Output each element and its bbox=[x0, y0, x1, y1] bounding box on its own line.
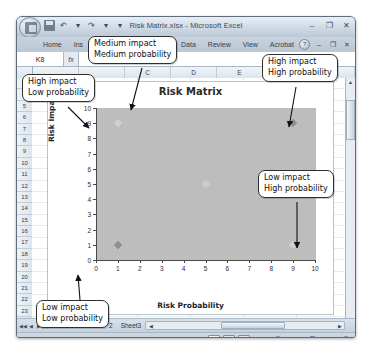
document-close-button[interactable]: ✕ bbox=[342, 40, 352, 50]
chart-x-tick-0: 0 bbox=[91, 265, 101, 272]
row-header-15[interactable]: 15 bbox=[17, 215, 32, 226]
ribbon-tab-strip: Home Ins Data Review View Acrobat ? – ❐ … bbox=[17, 37, 355, 52]
zoom-out-button[interactable]: – bbox=[273, 336, 283, 339]
sheet-nav-first-icon[interactable]: ◀◀ bbox=[19, 323, 26, 329]
chart-y-tickmark-9 bbox=[93, 123, 96, 124]
row-header-6[interactable]: 6 bbox=[17, 112, 32, 123]
callout-medium-impact: Medium impact Medium probability bbox=[88, 36, 177, 64]
sheet-tab-sheet3[interactable]: Sheet3 bbox=[117, 320, 146, 332]
callout-low-low-line2: Low probability bbox=[42, 314, 103, 325]
row-header-12[interactable]: 12 bbox=[17, 181, 32, 192]
tab-insert[interactable]: Ins bbox=[68, 40, 89, 50]
tab-view[interactable]: View bbox=[237, 40, 264, 50]
zoom-slider-midpoint bbox=[311, 337, 312, 338]
chart-y-tickmark-5 bbox=[93, 184, 96, 185]
zoom-slider[interactable] bbox=[286, 336, 338, 338]
page-layout-view-icon[interactable] bbox=[223, 335, 235, 338]
chart-x-tick-6: 6 bbox=[222, 265, 232, 272]
tab-data[interactable]: Data bbox=[175, 40, 202, 50]
name-box[interactable]: K8 bbox=[17, 52, 64, 66]
status-bar: Ready 100% – + bbox=[17, 332, 355, 338]
chart-y-tick-7: 7 bbox=[79, 150, 91, 157]
scroll-left-icon[interactable]: ◀ bbox=[146, 322, 155, 329]
callout-high-low-line1: High impact bbox=[28, 77, 89, 88]
chart-x-tick-8: 8 bbox=[266, 265, 276, 272]
chart-x-tickmark-0 bbox=[96, 260, 97, 263]
vertical-scrollbar[interactable]: ▲ bbox=[345, 78, 355, 318]
chart-y-tick-1: 1 bbox=[79, 241, 91, 248]
callout-high-low-line2: Low probability bbox=[28, 88, 89, 99]
row-header-9[interactable]: 9 bbox=[17, 146, 32, 157]
document-minimize-button[interactable]: – bbox=[314, 40, 324, 50]
chart-x-tick-4: 4 bbox=[179, 265, 189, 272]
zoom-slider-handle[interactable] bbox=[310, 336, 315, 338]
horizontal-scrollbar[interactable]: ◀ ▶ bbox=[145, 321, 345, 330]
callout-medium-line2: Medium probability bbox=[94, 50, 171, 61]
sheet-nav-prev-icon[interactable]: ◀ bbox=[27, 323, 34, 329]
chart-y-tick-5: 5 bbox=[79, 181, 91, 188]
chart-x-tickmark-7 bbox=[249, 260, 250, 263]
row-header-17[interactable]: 17 bbox=[17, 237, 32, 248]
chart-x-tickmark-8 bbox=[271, 260, 272, 263]
row-header-10[interactable]: 10 bbox=[17, 158, 32, 169]
row-header-20[interactable]: 20 bbox=[17, 272, 32, 283]
row-header-7[interactable]: 7 bbox=[17, 124, 32, 135]
row-header-16[interactable]: 16 bbox=[17, 226, 32, 237]
help-icon[interactable]: ? bbox=[299, 39, 310, 50]
risk-matrix-chart[interactable]: Risk Matrix Risk Impact Risk Probability… bbox=[47, 81, 334, 315]
row-header-19[interactable]: 19 bbox=[17, 260, 32, 271]
document-restore-button[interactable]: ❐ bbox=[328, 40, 338, 50]
tab-home[interactable]: Home bbox=[37, 40, 68, 50]
row-header-5[interactable]: 5 bbox=[17, 101, 32, 112]
callout-low-impact-low-probability: Low impact Low probability bbox=[36, 300, 109, 328]
row-header-23[interactable]: 23 bbox=[17, 306, 32, 317]
tab-review[interactable]: Review bbox=[202, 40, 237, 50]
chart-y-tick-6: 6 bbox=[79, 165, 91, 172]
row-header-18[interactable]: 18 bbox=[17, 249, 32, 260]
vertical-scroll-thumb[interactable] bbox=[346, 100, 355, 140]
horizontal-scroll-thumb[interactable] bbox=[221, 322, 284, 329]
column-header-c[interactable]: C bbox=[125, 67, 171, 78]
minimize-button[interactable]: – bbox=[306, 20, 318, 31]
insert-function-icon[interactable]: fx bbox=[64, 52, 79, 66]
chart-y-tickmark-3 bbox=[93, 214, 96, 215]
row-header-21[interactable]: 21 bbox=[17, 283, 32, 294]
chart-y-tick-2: 2 bbox=[79, 226, 91, 233]
row-header-14[interactable]: 14 bbox=[17, 203, 32, 214]
callout-low-high-line2: High probability bbox=[264, 184, 328, 195]
chart-x-tick-7: 7 bbox=[244, 265, 254, 272]
chart-x-tickmark-9 bbox=[293, 260, 294, 263]
row-header-8[interactable]: 8 bbox=[17, 135, 32, 146]
callout-low-impact-high-probability: Low impact High probability bbox=[258, 170, 334, 198]
chart-x-tickmark-4 bbox=[184, 260, 185, 263]
chart-y-tickmark-2 bbox=[93, 230, 96, 231]
zoom-level[interactable]: 100% bbox=[253, 337, 270, 338]
close-button[interactable]: ✕ bbox=[340, 20, 352, 31]
scroll-right-icon[interactable]: ▶ bbox=[335, 322, 344, 329]
chart-y-tickmark-1 bbox=[93, 245, 96, 246]
chart-x-tickmark-10 bbox=[315, 260, 316, 263]
column-header-e[interactable]: E bbox=[217, 67, 263, 78]
scroll-up-icon[interactable]: ▲ bbox=[346, 78, 355, 87]
chart-x-tick-9: 9 bbox=[288, 265, 298, 272]
column-header-d[interactable]: D bbox=[171, 67, 217, 78]
tab-acrobat[interactable]: Acrobat bbox=[264, 40, 300, 50]
chart-x-tick-5: 5 bbox=[201, 265, 211, 272]
chart-x-tickmark-3 bbox=[162, 260, 163, 263]
callout-high-high-line1: High impact bbox=[268, 57, 332, 68]
zoom-in-button[interactable]: + bbox=[341, 336, 351, 339]
chart-y-tickmark-4 bbox=[93, 199, 96, 200]
chart-y-tickmark-8 bbox=[93, 138, 96, 139]
row-header-column: 34567891011121314151617181920212223 bbox=[17, 78, 33, 318]
row-header-11[interactable]: 11 bbox=[17, 169, 32, 180]
row-header-13[interactable]: 13 bbox=[17, 192, 32, 203]
normal-view-icon[interactable] bbox=[208, 335, 220, 338]
maximize-button[interactable]: ❐ bbox=[323, 20, 335, 31]
row-header-22[interactable]: 22 bbox=[17, 294, 32, 305]
page-break-view-icon[interactable] bbox=[238, 335, 250, 338]
chart-y-tickmark-10 bbox=[93, 108, 96, 109]
chart-x-tick-3: 3 bbox=[157, 265, 167, 272]
chart-x-tick-2: 2 bbox=[135, 265, 145, 272]
window-title: Risk Matrix.xlsx - Microsoft Excel bbox=[17, 21, 355, 30]
status-bar-right: 100% – + bbox=[208, 335, 351, 338]
